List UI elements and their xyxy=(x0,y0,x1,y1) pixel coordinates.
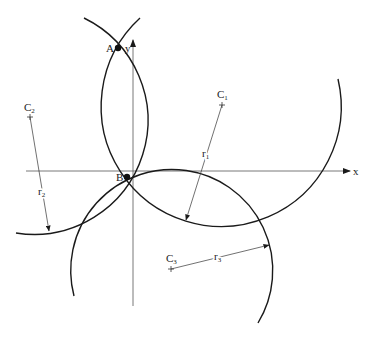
circle-c3-arc xyxy=(71,169,273,323)
center-c3-marker xyxy=(168,266,174,272)
point-a-label: A xyxy=(106,42,114,54)
radius-r2-line xyxy=(30,117,49,231)
x-axis-label: x xyxy=(353,165,359,177)
radius-r1-line xyxy=(186,105,222,220)
circle-c1-arc xyxy=(101,18,341,226)
center-c1-marker xyxy=(219,102,225,108)
point-b-label: B xyxy=(116,171,123,183)
center-c2-label: C2 xyxy=(24,101,35,115)
radius-r3-label: r3 xyxy=(214,250,222,264)
diagram-canvas: x y C1 C2 C3 r1 r2 r3 A B xyxy=(0,0,372,337)
point-a xyxy=(115,45,121,51)
y-axis: y xyxy=(125,40,133,306)
center-c3-label: C3 xyxy=(166,252,177,266)
point-b xyxy=(124,174,130,180)
center-c1-label: C1 xyxy=(217,88,228,102)
